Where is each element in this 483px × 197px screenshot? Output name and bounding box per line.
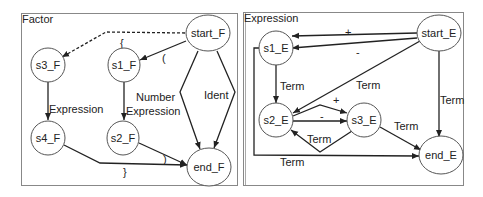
edge-label-minus-top: - [356, 46, 360, 58]
diagram-canvas: { ( Number Ident Expression Expression )… [0, 0, 483, 197]
factor-panel-title: Factor [22, 13, 53, 25]
node-end-e: end_E [419, 136, 463, 174]
node-s2-f: s2_F [107, 121, 139, 155]
svg-text:s1_F: s1_F [112, 59, 137, 71]
edge-label-minus-mid: - [320, 110, 324, 122]
edge-label-term-bottom: Term [280, 156, 304, 168]
node-end-f: end_F [187, 148, 231, 186]
node-start-f: start_F [186, 15, 230, 51]
node-s1-e: s1_E [259, 31, 293, 65]
node-start-e: start_E [417, 15, 461, 51]
svg-text:s2_E: s2_E [263, 114, 288, 126]
edge-start-end-number [180, 51, 200, 149]
svg-text:s2_F: s2_F [111, 132, 136, 144]
edge-start-s1-minus [292, 38, 417, 48]
edge-label-ident: Ident [204, 89, 228, 101]
node-s3-e: s3_E [347, 103, 381, 137]
edge-label-term-start-end: Term [440, 94, 464, 106]
expression-panel-title: Expression [244, 12, 298, 24]
edge-label-term-s1-s2: Term [280, 80, 304, 92]
edge-label-brace-close: } [123, 166, 127, 178]
svg-text:s1_E: s1_E [263, 42, 288, 54]
expression-panel: + - Term Term Term + - Term Term Term st… [244, 13, 465, 186]
factor-panel: { ( Number Ident Expression Expression )… [22, 14, 238, 187]
edge-label-plus-top: + [345, 26, 351, 38]
edge-label-term-s3-s2: Term [307, 133, 331, 145]
edge-label-plus-mid: + [333, 94, 339, 106]
node-s3-f: s3_F [31, 48, 65, 82]
edge-label-paren-close: ) [163, 153, 167, 165]
svg-text:s4_F: s4_F [36, 132, 61, 144]
svg-text:s3_F: s3_F [36, 59, 61, 71]
edge-label-expression-mid: Expression [126, 105, 180, 117]
edge-label-brace-open: { [120, 37, 124, 49]
edge-label-number: Number [136, 91, 175, 103]
node-s2-e: s2_E [259, 103, 293, 137]
edge-label-term-s3-end: Term [394, 120, 418, 132]
svg-text:end_E: end_E [425, 149, 457, 161]
edge-label-term-start-s2: Term [356, 79, 380, 91]
edge-label-expression-left: Expression [49, 103, 103, 115]
node-s4-f: s4_F [31, 121, 65, 155]
svg-text:start_F: start_F [191, 27, 226, 39]
node-s1-f: s1_F [108, 48, 140, 82]
svg-text:start_E: start_E [422, 27, 457, 39]
edge-label-paren-open: ( [162, 52, 166, 64]
svg-text:end_F: end_F [193, 161, 224, 173]
edge-start-s1-plus [292, 33, 417, 36]
svg-text:s3_E: s3_E [351, 114, 376, 126]
